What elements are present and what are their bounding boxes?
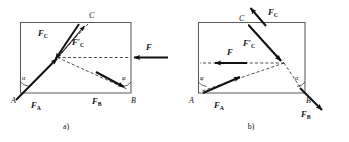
panel-a-caption: a): [63, 122, 70, 131]
diagram-canvas: F FA FC F′C FB α φ A B C a): [0, 0, 349, 142]
panel-b-angle-phi-label: φ: [200, 74, 204, 81]
figure-background: [0, 0, 349, 142]
panel-b-vertex-C-label: C: [239, 14, 245, 23]
panel-a-vertex-C-label: C: [89, 11, 95, 20]
panel-a-vertex-B-label: B: [131, 96, 136, 105]
panel-b-force-F-label: F: [226, 47, 233, 57]
panel-a-vertex-A-label: A: [10, 96, 16, 105]
force-diagram-figure: F FA FC F′C FB α φ A B C a): [0, 0, 349, 142]
panel-a-force-F-label: F: [145, 42, 152, 52]
panel-b-vertex-A-label: A: [188, 96, 194, 105]
panel-a-angle-phi-label: φ: [122, 74, 126, 81]
panel-b-caption: b): [248, 122, 255, 131]
panel-b-vertex-B-label: B: [306, 96, 311, 105]
